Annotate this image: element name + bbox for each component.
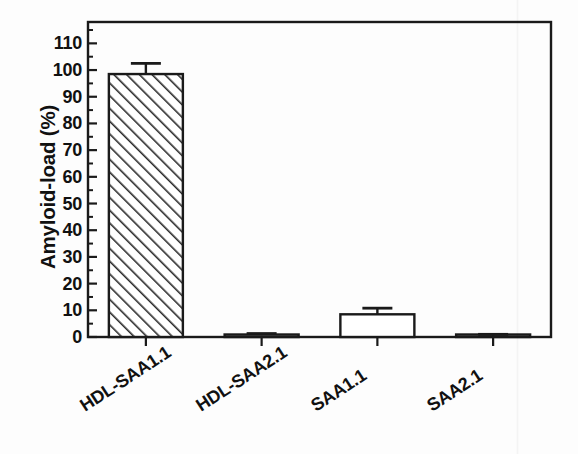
bar-chart-figure: Amyloid-load (%) 01020304050607080901001…	[0, 0, 578, 454]
bar-series	[109, 74, 530, 337]
error-bar	[478, 334, 508, 335]
error-bar	[247, 334, 277, 336]
bar	[109, 74, 183, 337]
error-bar	[131, 63, 161, 74]
plot-area	[0, 0, 578, 454]
bar	[340, 314, 414, 337]
x-axis-ticks	[146, 337, 493, 346]
error-bars	[131, 63, 508, 335]
y-axis-ticks	[88, 30, 97, 337]
